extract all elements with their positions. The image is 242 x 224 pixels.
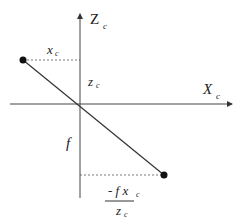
projection-denominator-sub: c [124,210,128,219]
zc-label-sub: c [96,81,100,90]
focal-length-label: f [66,135,72,151]
xc-label: x [46,42,53,57]
z-axis-label-sub: c [103,21,107,31]
projection-diagram: Z c X c x c z c f - f x c z c [0,0,242,224]
image-point [161,172,168,179]
object-point [20,57,27,64]
z-axis-label: Z [90,11,99,27]
projection-numerator: - f x [108,183,128,198]
x-axis-label-sub: c [216,91,220,101]
xc-label-sub: c [55,49,59,58]
projection-ray [23,60,164,175]
projection-denominator: z [115,203,121,218]
projection-numerator-sub: c [136,190,140,199]
zc-label: z [87,74,93,89]
x-axis-label: X [202,81,213,97]
